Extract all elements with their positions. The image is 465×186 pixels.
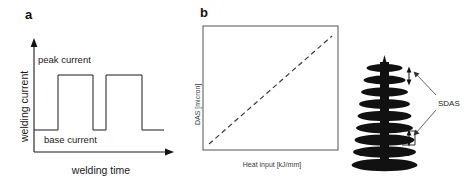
- panel-b-y-axis-label: DAS [micron]: [194, 84, 202, 125]
- dendrite-schematic: SDAS: [352, 55, 460, 171]
- panel-b-plot: DAS [micron] Heat input [kJ/mm]: [194, 26, 338, 169]
- panel-a-plot: welding current welding time peak curren…: [18, 38, 174, 176]
- figure-drawing: welding current welding time peak curren…: [0, 0, 465, 186]
- welding-current-waveform: [34, 75, 164, 130]
- sdas-measure-upper: [407, 67, 412, 86]
- base-current-annotation: base current: [44, 134, 97, 145]
- peak-current-annotation: peak current: [38, 54, 91, 65]
- panel-a-y-axis-label: welding current: [18, 71, 30, 143]
- panel-a-y-axis-arrowhead: [31, 38, 38, 47]
- sdas-leader-lines: [414, 72, 437, 136]
- panel-a-x-axis-arrowhead: [165, 149, 174, 156]
- panel-a-x-axis-label: welding time: [71, 164, 131, 176]
- dendrite-tip: [382, 55, 388, 66]
- das-trend-line: [209, 36, 332, 144]
- panel-b-x-axis-label: Heat input [kJ/mm]: [243, 161, 301, 169]
- sdas-label: SDAS: [438, 99, 460, 108]
- figure-container: a b welding current welding time peak cu…: [0, 0, 465, 186]
